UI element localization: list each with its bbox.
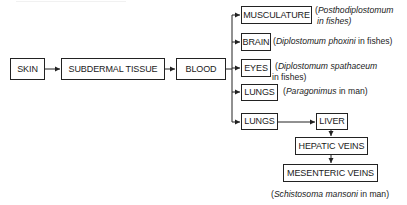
note-eyes-line2: in fishes) [272,72,306,83]
node-hepatic-veins: HEPATIC VEINS [295,137,368,155]
note-eyes: (Diplostomum spathaceum [275,61,377,72]
node-lungs-paragonimus: LUNGS [241,84,278,101]
host-text: in man) [337,86,368,96]
species-name: Diplostomum spathaceum [278,61,377,71]
node-musculature: MUSCULATURE [241,6,312,24]
host-text: in man) [358,189,389,199]
note-lungs-paragonimus: (Paragonimus in man) [283,86,368,97]
note-musculature-line2: in fishes) [317,16,351,27]
node-skin: SKIN [10,58,45,80]
node-blood: BLOOD [176,58,226,80]
note-brain: (Diplostomum phoxini in fishes) [273,36,392,47]
caption-schistosoma: (Schistosoma mansoni in man) [271,189,389,200]
node-brain: BRAIN [241,33,271,51]
node-lungs-schistosoma: LUNGS [241,113,278,130]
note-musculature: (Posthodiplostomum [315,5,393,16]
host-text: in fishes) [272,72,306,82]
node-subdermal-tissue: SUBDERMAL TISSUE [61,58,165,80]
species-name: Schistosoma mansoni [274,189,358,199]
host-text: in fishes) [317,16,351,26]
node-liver: LIVER [316,113,348,130]
host-text: in fishes) [356,36,393,46]
node-mesenteric-veins: MESENTERIC VEINS [283,164,378,182]
node-eyes: EYES [241,59,271,77]
species-name: Paragonimus [286,86,337,96]
species-name: Diplostomum phoxini [276,36,356,46]
species-name: Posthodiplostomum [318,5,393,15]
